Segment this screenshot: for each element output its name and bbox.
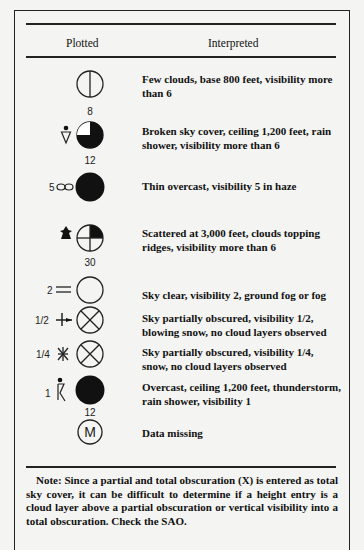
interpreted-text: Sky clear, visibility 2, ground fog or f…: [142, 289, 342, 303]
scattered-sky-icon: [77, 225, 103, 251]
interpreted-text: Scattered at 3,000 feet, clouds topping …: [142, 227, 342, 254]
cloud-height-label: 30: [84, 257, 96, 268]
interpreted-text: Data missing: [142, 427, 342, 441]
interpreted-text: Broken sky cover, ceiling 1,200 feet, ra…: [142, 125, 342, 152]
thunderstorm-rain-shower-icon: [58, 378, 65, 401]
fog-icon: [56, 287, 71, 292]
overcast-icon: [76, 173, 105, 202]
blowing-snow-icon: [56, 313, 72, 326]
footer-rule: [26, 466, 336, 468]
visibility-label: 2: [47, 285, 53, 296]
interpreted-text: Overcast, ceiling 1,200 feet, thundersto…: [142, 381, 342, 408]
interpreted-text: Few clouds, base 800 feet, visibility mo…: [142, 73, 342, 100]
snow-icon: [58, 347, 68, 361]
haze-icon: [57, 184, 73, 190]
cloud-height-label: 12: [84, 407, 96, 418]
visibility-label: 1/2: [35, 315, 49, 326]
cloud-height-label: 8: [87, 106, 93, 117]
clouds-topping-ridges-icon: [60, 226, 72, 239]
cloud-height-label: 12: [84, 155, 96, 166]
interpreted-text: Sky partially obscured, visibility 1/2, …: [142, 312, 342, 339]
footnote: Note: Since a partial and total obscurat…: [26, 474, 338, 528]
overcast-icon: [76, 376, 105, 405]
missing-label: M: [84, 424, 96, 440]
obscured-sky-icon: [77, 341, 103, 367]
visibility-label: 1/4: [36, 349, 50, 360]
rain-shower-icon: [62, 126, 71, 143]
broken-sky-icon: [77, 122, 103, 148]
visibility-label: 1: [45, 388, 51, 399]
interpreted-text: Thin overcast, visibility 5 in haze: [142, 180, 342, 194]
interpreted-text: Sky partially obscured, visibility 1/4, …: [142, 346, 342, 373]
few-clouds-icon: [77, 71, 103, 97]
clear-sky-icon: [77, 277, 103, 303]
visibility-label: 5: [49, 182, 55, 193]
obscured-sky-icon: [77, 307, 103, 333]
